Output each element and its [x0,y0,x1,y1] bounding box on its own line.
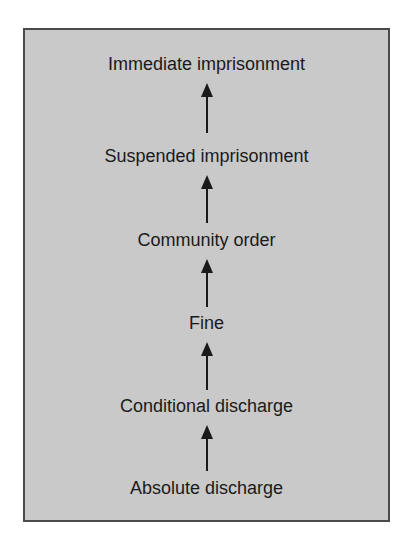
level-suspended-imprisonment: Suspended imprisonment [25,145,388,167]
arrow-up-icon [201,83,213,133]
level-community-order: Community order [25,229,388,251]
level-conditional-discharge: Conditional discharge [25,395,388,417]
arrow-up-icon [201,425,213,471]
arrow-up-icon [201,259,213,307]
level-fine: Fine [25,312,388,334]
arrow-up-icon [201,342,213,390]
arrow-up-icon [201,175,213,223]
level-immediate-imprisonment: Immediate imprisonment [25,53,388,75]
sentencing-hierarchy-box: Immediate imprisonment Suspended impriso… [23,28,390,522]
level-absolute-discharge: Absolute discharge [25,477,388,499]
